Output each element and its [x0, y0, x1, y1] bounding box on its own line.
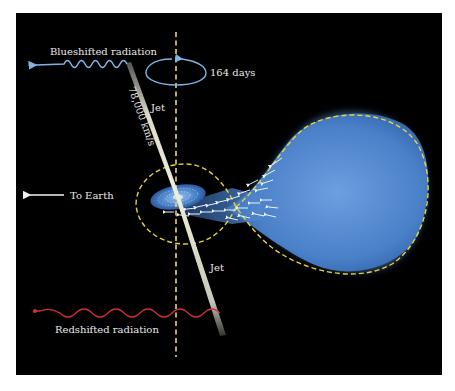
to-earth-label: To Earth [70, 190, 114, 201]
jet-upper-label: Jet [150, 102, 165, 113]
ss433-diagram: 164 days Blueshifted radiation 78,000 km… [0, 0, 455, 391]
jet-lower-label: Jet [209, 262, 224, 273]
period-label: 164 days [210, 67, 255, 78]
blueshifted-label: Blueshifted radiation [50, 46, 157, 57]
redshifted-label: Redshifted radiation [55, 324, 159, 335]
